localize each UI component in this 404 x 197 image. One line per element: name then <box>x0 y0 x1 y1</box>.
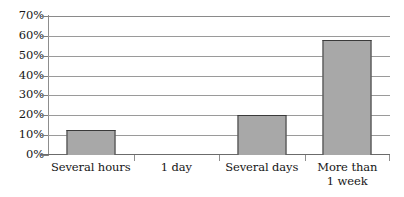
bar-series <box>48 16 390 155</box>
bar-slot-several-days <box>219 16 305 155</box>
x-axis-label-line: Several days <box>219 160 305 174</box>
bar-slot-more-than-1-week <box>305 16 391 155</box>
bar-slot-several-hours <box>48 16 134 155</box>
x-axis-label-several-days: Several days <box>219 160 305 174</box>
bar-chart: 70% 60% 50% 40% 30% 20% 10% 0% <box>0 0 404 197</box>
y-axis-tick-label: 0% <box>0 149 44 161</box>
y-axis-tick-label: 70% <box>0 10 44 22</box>
y-axis-tick-label: 50% <box>0 50 44 62</box>
y-axis-tick <box>41 95 48 96</box>
y-axis-tick <box>41 76 48 77</box>
x-axis-label-line: 1 day <box>134 160 220 174</box>
x-axis-label-line: Several hours <box>48 160 134 174</box>
y-axis-tick-label: 20% <box>0 109 44 121</box>
y-axis-tick <box>41 155 48 156</box>
y-axis-tick <box>41 36 48 37</box>
y-axis-tick <box>41 135 48 136</box>
bar-more-than-1-week[interactable] <box>323 40 372 155</box>
y-axis-tick <box>41 16 48 17</box>
x-axis-label-line: 1 week <box>305 174 391 188</box>
plot-area <box>48 16 390 155</box>
x-axis-label-several-hours: Several hours <box>48 160 134 174</box>
x-axis-label-line: More than <box>305 160 391 174</box>
y-axis-tick-label: 10% <box>0 129 44 141</box>
bar-several-hours[interactable] <box>66 130 115 155</box>
x-axis-label-more-than-1-week: More than 1 week <box>305 160 391 188</box>
x-axis-category-labels: Several hours 1 day Several days More th… <box>48 160 390 197</box>
y-axis-tick <box>41 115 48 116</box>
y-axis-tick-label: 30% <box>0 89 44 101</box>
y-axis-tick <box>41 56 48 57</box>
x-axis-label-1-day: 1 day <box>134 160 220 174</box>
y-axis-tick-label: 40% <box>0 70 44 82</box>
bar-slot-1-day <box>134 16 220 155</box>
y-axis-tick-label: 60% <box>0 30 44 42</box>
bar-several-days[interactable] <box>237 115 286 155</box>
y-axis-tick-labels: 70% 60% 50% 40% 30% 20% 10% 0% <box>0 0 44 197</box>
